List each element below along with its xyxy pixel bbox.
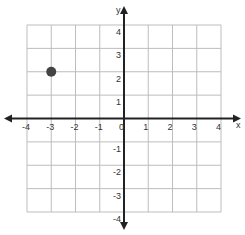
y-tick-label: -1 (113, 144, 121, 154)
x-tick-label: -4 (22, 122, 30, 132)
x-tick-label: -3 (46, 122, 54, 132)
x-tick-label: 4 (216, 122, 221, 132)
y-tick-label: -2 (113, 167, 121, 177)
x-tick-label: -1 (95, 122, 103, 132)
x-tick-label: 1 (143, 122, 148, 132)
x-axis-left-arrow-icon (4, 115, 12, 123)
y-tick-label: 1 (116, 97, 121, 107)
x-tick-label: 0 (119, 122, 124, 132)
data-point (46, 67, 56, 77)
y-tick-label: -4 (113, 214, 121, 224)
x-tick-label: 2 (168, 122, 173, 132)
y-axis-down-arrow-icon (120, 222, 128, 230)
x-tick-label: 3 (192, 122, 197, 132)
coordinate-plane: -4-3-2-1012344321-1-2-3-4 x y (0, 0, 245, 235)
y-tick-label: 2 (116, 74, 121, 84)
x-tick-label: -2 (71, 122, 79, 132)
y-tick-label: -3 (113, 191, 121, 201)
data-points (46, 67, 56, 77)
y-axis-up-arrow-icon (120, 6, 128, 14)
y-tick-label: 3 (116, 50, 121, 60)
x-axis-label: x (236, 120, 241, 130)
tick-labels: -4-3-2-1012344321-1-2-3-4 (22, 27, 221, 224)
y-axis-label: y (116, 5, 121, 15)
axes (4, 6, 241, 230)
y-tick-label: 4 (116, 27, 121, 37)
